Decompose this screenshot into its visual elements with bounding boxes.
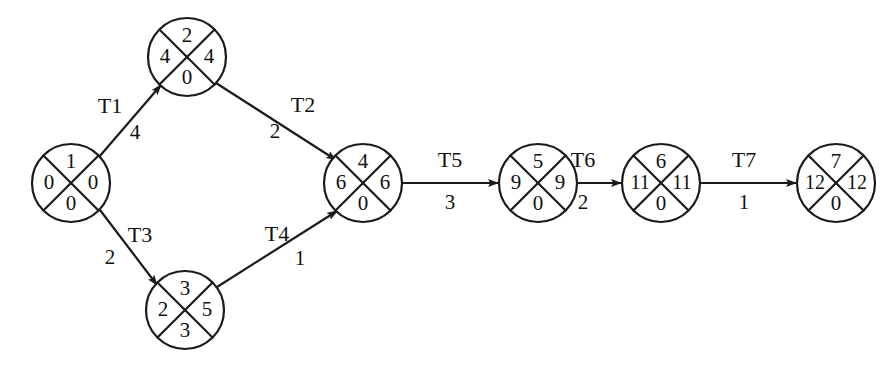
node-slack: 0 [656, 191, 667, 215]
node-event-number: 5 [533, 149, 544, 173]
edge-duration: 3 [445, 190, 456, 214]
edge-label: T7 [732, 147, 756, 172]
edge-label: T5 [438, 147, 462, 172]
node-3[interactable]: 3253 [146, 271, 224, 349]
edge-duration: 2 [270, 119, 281, 143]
node-slack: 0 [358, 191, 369, 215]
node-event-number: 4 [358, 149, 369, 173]
network-diagram: T14T22T32T41T53T62T71 100024403253466059… [0, 0, 894, 368]
node-latest-time: 6 [380, 170, 391, 194]
edge-duration: 1 [295, 246, 306, 270]
node-latest-time: 0 [88, 170, 99, 194]
edge-duration: 2 [578, 190, 589, 214]
node-5[interactable]: 5990 [499, 144, 577, 222]
node-earliest-time: 2 [158, 297, 169, 321]
node-6[interactable]: 611110 [622, 144, 700, 222]
node-2[interactable]: 2440 [148, 18, 226, 96]
edge-duration: 4 [130, 120, 141, 144]
node-4[interactable]: 4660 [324, 144, 402, 222]
node-latest-time: 11 [672, 171, 691, 193]
node-slack: 0 [831, 191, 842, 215]
node-slack: 0 [66, 191, 77, 215]
node-event-number: 3 [180, 276, 191, 300]
edge-t5: T53 [402, 147, 498, 214]
network-diagram-canvas: T14T22T32T41T53T62T71 100024403253466059… [0, 0, 894, 368]
edge-label: T1 [98, 93, 122, 118]
node-latest-time: 9 [555, 170, 566, 194]
node-latest-time: 12 [847, 171, 867, 193]
node-latest-time: 5 [202, 297, 213, 321]
edge-t2: T22 [216, 83, 336, 160]
node-latest-time: 4 [204, 44, 215, 68]
node-earliest-time: 4 [160, 44, 171, 68]
node-1[interactable]: 1000 [32, 144, 110, 222]
node-event-number: 6 [656, 149, 667, 173]
edge-t4: T41 [217, 211, 337, 287]
node-slack: 3 [180, 318, 191, 342]
node-earliest-time: 6 [336, 170, 347, 194]
node-event-number: 2 [182, 23, 193, 47]
node-earliest-time: 11 [630, 171, 649, 193]
edge-t6: T62 [571, 147, 621, 214]
node-7[interactable]: 712120 [797, 144, 875, 222]
edge-label: T4 [265, 221, 289, 246]
edge-label: T2 [291, 92, 315, 117]
node-earliest-time: 0 [44, 170, 55, 194]
edge-label: T3 [128, 222, 152, 247]
node-event-number: 7 [831, 149, 842, 173]
node-earliest-time: 12 [805, 171, 825, 193]
node-earliest-time: 9 [511, 170, 522, 194]
node-slack: 0 [182, 65, 193, 89]
edge-t1: T14 [98, 85, 161, 157]
edge-duration: 2 [105, 245, 116, 269]
edge-t3: T32 [100, 210, 157, 285]
node-event-number: 1 [66, 149, 77, 173]
edge-t7: T71 [700, 147, 796, 214]
node-slack: 0 [533, 191, 544, 215]
edge-duration: 1 [739, 190, 750, 214]
